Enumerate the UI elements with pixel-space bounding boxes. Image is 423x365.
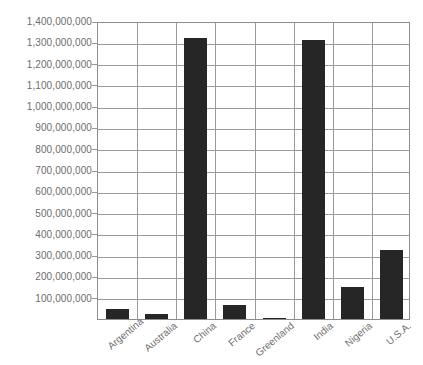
gridline-vertical	[333, 23, 334, 319]
gridline-horizontal	[98, 65, 409, 66]
y-axis-tick-label: 500,000,000	[0, 209, 92, 219]
gridline-horizontal	[98, 129, 409, 130]
bar	[184, 38, 207, 319]
x-axis: ArgentinaAustraliaChinaFranceGreenlandIn…	[97, 320, 410, 365]
gridline-horizontal	[98, 108, 409, 109]
y-axis-tick-label: 200,000,000	[0, 272, 92, 282]
bar	[341, 287, 364, 319]
gridline-vertical	[176, 23, 177, 319]
gridline-vertical	[372, 23, 373, 319]
y-axis: 1,400,000,0001,300,000,0001,200,000,0001…	[0, 0, 92, 365]
plot-area	[97, 22, 410, 320]
gridline-horizontal	[98, 150, 409, 151]
y-axis-tick-label: 800,000,000	[0, 145, 92, 155]
gridline-horizontal	[98, 235, 409, 236]
gridline-vertical	[255, 23, 256, 319]
y-axis-tick-label: 1,100,000,000	[0, 81, 92, 91]
y-axis-tick-label: 1,300,000,000	[0, 38, 92, 48]
y-axis-tick-label: 700,000,000	[0, 166, 92, 176]
bar	[145, 314, 168, 319]
gridline-horizontal	[98, 44, 409, 45]
y-axis-tick-label: 100,000,000	[0, 294, 92, 304]
y-axis-tick-label: 1,200,000,000	[0, 60, 92, 70]
gridline-horizontal	[98, 257, 409, 258]
y-axis-tick-label: 600,000,000	[0, 187, 92, 197]
gridline-horizontal	[98, 86, 409, 87]
y-axis-tick-label: 1,400,000,000	[0, 17, 92, 27]
x-axis-tick-label: Argentina	[105, 320, 140, 352]
gridline-vertical	[294, 23, 295, 319]
bar	[106, 309, 129, 319]
bar	[223, 305, 246, 319]
gridline-horizontal	[98, 172, 409, 173]
y-axis-tick-label: 900,000,000	[0, 123, 92, 133]
bar	[302, 40, 325, 319]
gridline-vertical	[215, 23, 216, 319]
y-axis-tick-label: 1,000,000,000	[0, 102, 92, 112]
bar	[263, 318, 286, 319]
bar	[380, 250, 403, 319]
gridline-horizontal	[98, 193, 409, 194]
gridline-vertical	[137, 23, 138, 319]
y-axis-tick-label: 400,000,000	[0, 230, 92, 240]
gridline-horizontal	[98, 214, 409, 215]
y-axis-tick-label: 300,000,000	[0, 251, 92, 261]
gridline-horizontal	[98, 278, 409, 279]
bar-chart: 1,400,000,0001,300,000,0001,200,000,0001…	[0, 0, 423, 365]
